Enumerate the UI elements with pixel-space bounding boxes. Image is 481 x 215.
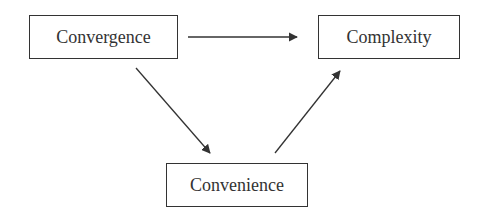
arrow-convergence-to-convenience: [136, 68, 210, 153]
convenience-label: Convenience: [190, 175, 284, 196]
convergence-node: Convergence: [29, 15, 178, 59]
convenience-node: Convenience: [166, 163, 308, 207]
arrow-convenience-to-complexity: [275, 71, 340, 153]
complexity-node: Complexity: [318, 15, 460, 59]
complexity-label: Complexity: [347, 27, 432, 48]
convergence-label: Convergence: [56, 27, 151, 48]
